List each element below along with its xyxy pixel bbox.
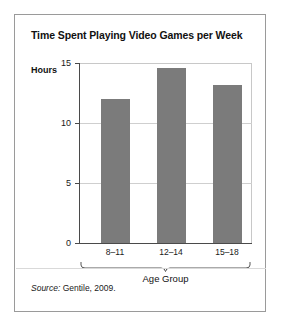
bar-12-14[interactable]	[157, 68, 186, 243]
figure-frame: Time Spent Playing Video Games per Week …	[14, 14, 266, 312]
source-note: Source: Gentile, 2009.	[31, 283, 116, 293]
y-tick-label-0: 0	[43, 239, 71, 248]
source-separator	[16, 268, 266, 269]
category-brace-icon	[79, 261, 252, 273]
y-tick-label-10: 10	[43, 119, 71, 128]
bar-8-11[interactable]	[101, 99, 130, 243]
source-label: Source:	[31, 283, 60, 293]
y-tick-label-15: 15	[43, 59, 71, 68]
source-citation: Gentile, 2009.	[63, 283, 116, 293]
bar-15-18[interactable]	[213, 85, 242, 243]
x-tick-label-15-18: 15–18	[191, 247, 263, 257]
plot-area	[79, 63, 252, 244]
y-tick-label-5: 5	[43, 179, 71, 188]
